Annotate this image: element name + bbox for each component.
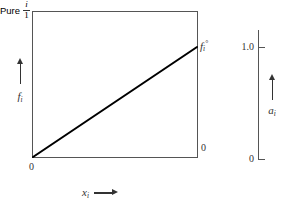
activity-axis-symbol: ai (262, 104, 282, 118)
activity-axis-tick-label-one: 1.0 (228, 41, 254, 52)
x-axis-symbol: xi (82, 186, 89, 200)
x-axis-subscript: i (87, 191, 89, 200)
origin-zero-label: 0 (29, 161, 34, 172)
raoults-law-figure: fi fi° 0 0 Pure i 1 xi 1.0 0 ai (0, 0, 287, 209)
y-axis-label-group: fi (10, 62, 30, 104)
activity-axis-label-group: ai (262, 78, 282, 118)
activity-axis-tick-label-zero: 0 (236, 153, 254, 164)
activity-axis-line (258, 30, 259, 160)
right-zero-label: 0 (201, 142, 206, 153)
pure-text: Pure (0, 5, 20, 16)
x-axis-label-group: xi (82, 186, 118, 200)
pure-fraction-denominator: 1 (23, 11, 30, 20)
pure-fraction: i 1 (23, 0, 30, 20)
y-axis-subscript: i (20, 95, 22, 104)
arrow-right-icon (94, 189, 118, 197)
plot-frame (32, 11, 198, 158)
activity-axis-tick-top (258, 47, 265, 48)
degree-superscript: ° (205, 39, 208, 48)
y-axis-symbol: fi (10, 90, 30, 104)
pure-fraction-numerator: i (24, 0, 29, 9)
activity-axis-tick-bottom (258, 159, 265, 160)
activity-axis-subscript: i (274, 109, 276, 118)
fugacity-pure-label: fi° (200, 39, 208, 53)
